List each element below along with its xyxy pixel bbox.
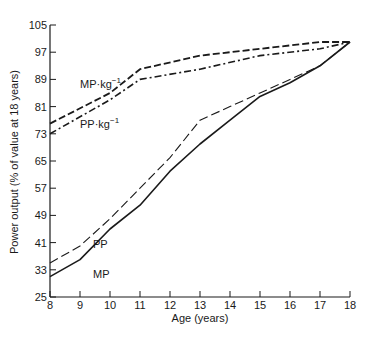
x-tick-label: 8 [47, 299, 53, 311]
series-labels: MP·kg−1PP·kg−1PPMP [80, 76, 121, 280]
y-tick-label: 97 [35, 46, 47, 58]
series-label: PP·kg−1 [80, 116, 120, 130]
y-tick-label: 73 [35, 128, 47, 140]
x-tick-label: 13 [194, 299, 206, 311]
x-axis-title: Age (years) [172, 312, 229, 324]
y-tick-label: 57 [35, 182, 47, 194]
y-tick-label: 105 [29, 19, 47, 31]
x-tick-label: 16 [284, 299, 296, 311]
axes: 2533414957657381899710589101112131415161… [29, 19, 356, 311]
y-axis-title: Power output (% of value at 18 years) [8, 70, 20, 254]
y-tick-label: 25 [35, 291, 47, 303]
y-tick-label: 49 [35, 209, 47, 221]
y-tick-label: 65 [35, 155, 47, 167]
series-label: MP [93, 268, 110, 280]
y-tick-label: 41 [35, 237, 47, 249]
x-tick-label: 10 [104, 299, 116, 311]
series-label: PP [93, 238, 108, 250]
x-tick-label: 18 [344, 299, 356, 311]
x-tick-label: 11 [134, 299, 145, 311]
y-tick-label: 81 [35, 101, 47, 113]
y-tick-label: 89 [35, 73, 47, 85]
x-tick-label: 14 [224, 299, 236, 311]
x-tick-label: 12 [164, 299, 176, 311]
y-tick-label: 33 [35, 264, 47, 276]
x-tick-label: 15 [254, 299, 266, 311]
power-output-chart: 2533414957657381899710589101112131415161… [0, 0, 374, 349]
x-tick-label: 17 [314, 299, 326, 311]
x-tick-label: 9 [77, 299, 83, 311]
